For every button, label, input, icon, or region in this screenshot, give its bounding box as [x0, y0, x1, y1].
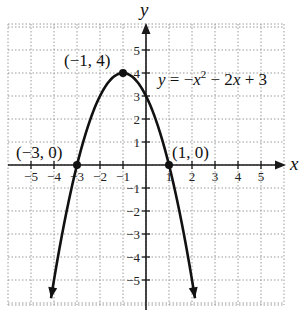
equation-label: y = −x2 − 2x + 3: [156, 68, 267, 89]
x-intercept-point: [165, 161, 173, 169]
curve-arrow-icon: [189, 287, 198, 299]
equation-y: y: [156, 70, 166, 89]
x-tick-label: −2: [93, 169, 107, 184]
x-tick-label: −4: [47, 169, 61, 184]
x-intercept-point: [73, 161, 81, 169]
x-tick-label: 3: [212, 169, 219, 184]
parabola-chart: −5−4−3−2−112345−5−4−3−2−112345 x y (−1, …: [0, 0, 307, 318]
axes: [8, 23, 286, 310]
y-tick-label: 3: [134, 89, 141, 104]
x-tick-label: 4: [235, 169, 242, 184]
y-tick-label: −3: [126, 227, 140, 242]
equation-eq: = −: [166, 70, 194, 89]
vertex-label: (−1, 4): [64, 51, 110, 70]
y-axis-arrow-icon: [142, 23, 151, 34]
x-tick-label: 5: [258, 169, 265, 184]
x-axis-title: x: [289, 153, 299, 174]
y-tick-label: 1: [134, 135, 141, 150]
y-axis-title: y: [138, 0, 149, 20]
curve-arrow-icon: [48, 287, 57, 299]
left-intercept-label: (−3, 0): [16, 143, 62, 162]
x-tick-label: 2: [189, 169, 196, 184]
y-tick-label: 5: [134, 43, 141, 58]
right-intercept-label: (1, 0): [172, 143, 209, 162]
x-tick-label: −5: [24, 169, 38, 184]
y-tick-label: −1: [126, 181, 140, 196]
equation-linear: − 2: [206, 70, 233, 89]
vertex-point: [119, 69, 127, 77]
y-tick-label: −2: [126, 204, 140, 219]
equation-constant: + 3: [240, 70, 267, 89]
y-tick-label: −4: [126, 250, 140, 265]
y-tick-label: 2: [134, 112, 141, 127]
y-tick-label: −5: [126, 273, 140, 288]
